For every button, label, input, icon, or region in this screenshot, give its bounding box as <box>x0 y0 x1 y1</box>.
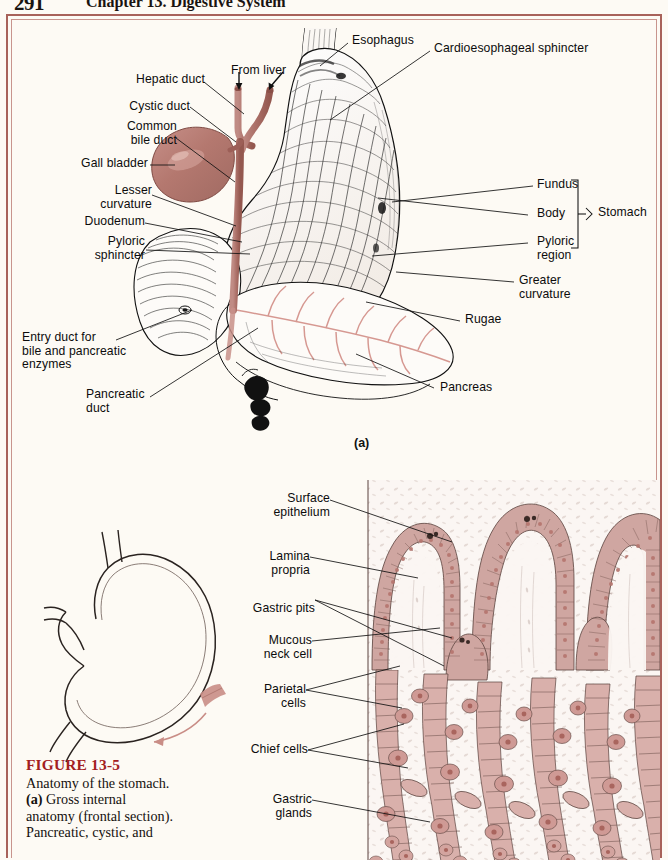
label-mucous-neck-cell: Mucous neck cell <box>190 634 312 661</box>
label-rugae: Rugae <box>465 313 501 327</box>
label-lamina-propria: Lamina propria <box>190 550 310 577</box>
label-hepatic-duct: Hepatic duct <box>40 73 205 87</box>
label-pancreatic-duct: Pancreatic duct <box>86 388 176 415</box>
label-parietal-cells: Parietal cells <box>190 683 306 710</box>
label-surface-epithelium: Surface epithelium <box>190 492 330 519</box>
label-entry-duct: Entry duct for bile and pancreatic enzym… <box>22 331 172 372</box>
caption-line-1: Anatomy of the <box>26 775 115 791</box>
figure-caption: FIGURE 13-5 Anatomy of the stomach. (a) … <box>26 757 176 841</box>
label-chief-cells: Chief cells <box>190 743 308 757</box>
panel-a-marker: (a) <box>354 436 369 450</box>
label-stomach-bracket: Stomach <box>598 206 647 220</box>
label-fundus: Fundus <box>537 178 578 192</box>
caption-line-4: (frontal section). <box>78 808 173 824</box>
label-gastric-pits: Gastric pits <box>190 602 315 616</box>
label-pancreas: Pancreas <box>440 381 492 395</box>
label-common-bile-duct: Common bile duct <box>40 120 177 147</box>
label-gastric-glands: Gastric glands <box>190 793 312 820</box>
label-from-liver: From liver <box>231 64 286 78</box>
label-pyloric-region: Pyloric region <box>537 235 574 262</box>
label-duodenum: Duodenum <box>35 215 145 229</box>
caption-line-5: Pancreatic, cystic, and <box>26 824 153 840</box>
label-body: Body <box>537 207 565 221</box>
figure-number: FIGURE 13-5 <box>26 757 176 774</box>
label-cardioesophageal-sphincter: Cardioesophageal sphincter <box>434 42 588 56</box>
label-lesser-curvature: Lesser curvature <box>40 184 152 211</box>
label-pyloric-sphincter: Pyloric sphincter <box>40 235 145 262</box>
duodenal-papilla <box>242 369 270 430</box>
label-greater-curvature: Greater curvature <box>519 274 571 301</box>
label-cystic-duct: Cystic duct <box>40 100 190 114</box>
pancreas-shape <box>216 282 453 430</box>
label-esophagus: Esophagus <box>352 34 414 48</box>
gastric-mucosa-histology <box>368 480 662 860</box>
label-gall-bladder: Gall bladder <box>30 157 148 171</box>
textbook-page: 291 Chapter 13. Digestive System <box>0 0 668 860</box>
